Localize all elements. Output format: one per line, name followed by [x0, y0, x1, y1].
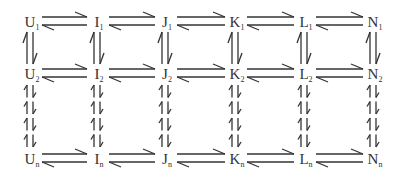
- forward-arrow-head: [282, 149, 294, 154]
- node-Un: Un: [25, 152, 40, 167]
- node-subscript: n: [100, 160, 104, 169]
- backward-arrow-head: [316, 162, 328, 167]
- edges-layer: [0, 0, 401, 178]
- forward-arrow-head: [143, 64, 155, 69]
- node-subscript: 1: [309, 23, 313, 32]
- node-subscript: 2: [240, 75, 244, 84]
- node-letter: K: [230, 14, 241, 30]
- node-subscript: n: [168, 160, 172, 169]
- backward-arrow-head: [177, 162, 189, 167]
- backward-arrow-head: [316, 77, 328, 82]
- node-letter: N: [368, 151, 379, 167]
- backward-arrow-head: [247, 77, 259, 82]
- forward-arrow-head: [143, 149, 155, 154]
- forward-arrow-head: [143, 12, 155, 17]
- forward-arrow-head: [213, 64, 225, 69]
- node-letter: K: [230, 151, 241, 167]
- backward-arrow-head: [109, 162, 121, 167]
- backward-arrow-head: [177, 25, 189, 30]
- node-U2: U2: [25, 67, 40, 82]
- forward-arrow-head: [351, 12, 363, 17]
- node-letter: J: [162, 14, 168, 30]
- node-U1: U1: [25, 15, 40, 30]
- node-subscript: 1: [35, 23, 39, 32]
- backward-arrow-head: [316, 25, 328, 30]
- node-subscript: n: [378, 160, 382, 169]
- node-Jn: Jn: [162, 152, 172, 167]
- node-subscript: n: [240, 160, 244, 169]
- node-K2: K2: [230, 67, 245, 82]
- node-letter: L: [299, 66, 308, 82]
- forward-arrow-head: [351, 149, 363, 154]
- node-subscript: 1: [168, 23, 172, 32]
- backward-arrow-head: [42, 25, 54, 30]
- node-subscript: 1: [100, 23, 104, 32]
- node-J2: J2: [162, 67, 172, 82]
- node-subscript: 1: [240, 23, 244, 32]
- forward-arrow-head: [282, 12, 294, 17]
- backward-arrow-head: [247, 162, 259, 167]
- node-subscript: 2: [100, 75, 104, 84]
- node-letter: U: [25, 14, 36, 30]
- node-letter: N: [368, 66, 379, 82]
- forward-arrow-head: [75, 12, 87, 17]
- node-I1: I1: [95, 15, 104, 30]
- node-letter: U: [25, 151, 36, 167]
- node-subscript: 1: [378, 23, 382, 32]
- backward-arrow-head: [42, 77, 54, 82]
- reaction-network-diagram: U1I1J1K1L1N1U2I2J2K2L2N2UnInJnKnLnNn: [0, 0, 401, 178]
- node-N2: N2: [368, 67, 383, 82]
- node-subscript: 2: [309, 75, 313, 84]
- forward-arrow-head: [213, 12, 225, 17]
- node-subscript: 2: [168, 75, 172, 84]
- node-letter: J: [162, 66, 168, 82]
- node-letter: L: [299, 151, 308, 167]
- node-subscript: n: [309, 160, 313, 169]
- forward-arrow-head: [213, 149, 225, 154]
- node-J1: J1: [162, 15, 172, 30]
- forward-arrow-head: [75, 64, 87, 69]
- backward-arrow-head: [42, 162, 54, 167]
- backward-arrow-head: [177, 77, 189, 82]
- node-N1: N1: [368, 15, 383, 30]
- node-Nn: Nn: [368, 152, 383, 167]
- node-letter: K: [230, 66, 241, 82]
- node-Kn: Kn: [230, 152, 245, 167]
- node-subscript: n: [35, 160, 39, 169]
- node-subscript: 2: [378, 75, 382, 84]
- forward-arrow-head: [282, 64, 294, 69]
- node-subscript: 2: [35, 75, 39, 84]
- backward-arrow-head: [109, 25, 121, 30]
- backward-arrow-head: [247, 25, 259, 30]
- forward-arrow-head: [351, 64, 363, 69]
- node-L1: L1: [299, 15, 312, 30]
- backward-arrow-head: [109, 77, 121, 82]
- node-letter: J: [162, 151, 168, 167]
- node-L2: L2: [299, 67, 312, 82]
- node-letter: L: [299, 14, 308, 30]
- node-Ln: Ln: [299, 152, 312, 167]
- node-In: In: [95, 152, 104, 167]
- node-letter: N: [368, 14, 379, 30]
- node-I2: I2: [95, 67, 104, 82]
- forward-arrow-head: [75, 149, 87, 154]
- node-letter: U: [25, 66, 36, 82]
- node-K1: K1: [230, 15, 245, 30]
